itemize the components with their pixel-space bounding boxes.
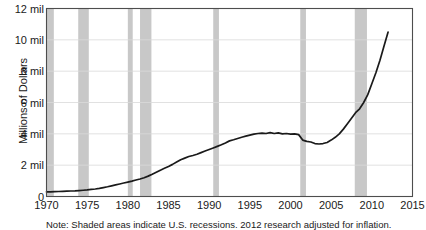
plot-area (0, 0, 426, 230)
chart-caption: Note: Shaded areas indicate U.S. recessi… (46, 219, 426, 230)
chart-figure: Millions of Dollars 02 mil4 mil6 mil8 mi… (0, 0, 426, 230)
x-axis-tick-label: 1990 (197, 199, 221, 211)
x-axis-tick-label: 1985 (156, 199, 180, 211)
x-axis-tick-label: 1970 (34, 199, 58, 211)
x-axis-tick-label: 2000 (278, 199, 302, 211)
x-axis-tick-label: 1975 (75, 199, 99, 211)
x-axis-tick-label: 2005 (319, 199, 343, 211)
x-axis-tick-label: 1980 (116, 199, 140, 211)
x-axis-tick-label: 1995 (238, 199, 262, 211)
x-axis-tick-label: 2015 (400, 199, 424, 211)
x-axis-tick-label: 2010 (360, 199, 384, 211)
